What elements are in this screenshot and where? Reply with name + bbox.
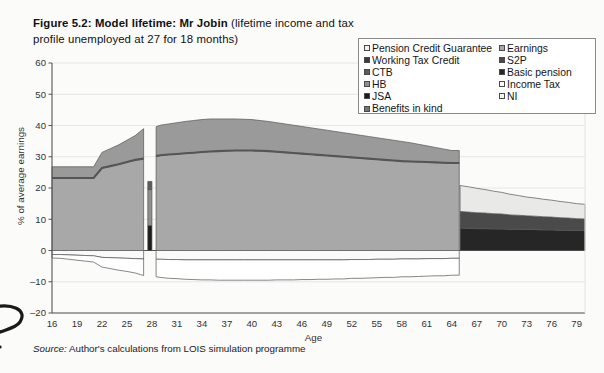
legend-label: JSA: [372, 91, 391, 102]
legend-item[interactable]: Income Tax: [499, 78, 591, 90]
y-tick-label: 60: [35, 57, 46, 68]
x-tick-label: 58: [396, 318, 407, 329]
y-tick-label: 30: [35, 151, 46, 162]
legend-label: NI: [507, 91, 517, 102]
legend-item[interactable]: NI: [499, 90, 591, 102]
x-axis-title: Age: [305, 332, 323, 343]
legend-swatch-icon: [499, 45, 505, 51]
x-tick-label: 46: [297, 318, 308, 329]
y-tick-label: 0: [41, 245, 46, 256]
area-band-ctb: [148, 181, 152, 189]
y-tick-label: –10: [30, 276, 46, 287]
legend-item[interactable]: S2P: [499, 54, 591, 66]
legend-swatch-icon: [499, 93, 505, 99]
chart-legend: Pension Credit GuaranteeWorking Tax Cred…: [358, 38, 596, 114]
legend-item[interactable]: Benefits in kind: [364, 102, 499, 114]
area-band-basic_pension: [460, 228, 585, 251]
area-band-hb: [148, 190, 152, 226]
y-tick-label: 20: [35, 182, 46, 193]
legend-swatch-icon: [499, 69, 505, 75]
x-tick-label: 64: [446, 318, 457, 329]
legend-swatch-icon: [364, 81, 370, 87]
x-tick-label: 22: [97, 318, 108, 329]
legend-label: Working Tax Credit: [372, 55, 459, 66]
x-tick-label: 49: [321, 318, 332, 329]
legend-label: HB: [372, 79, 386, 90]
legend-label: Benefits in kind: [372, 103, 442, 114]
x-tick-label: 52: [346, 318, 357, 329]
legend-swatch-icon: [364, 106, 370, 112]
x-tick-label: 16: [47, 318, 58, 329]
area-band-jsa: [148, 226, 152, 251]
figure-container: Figure 5.2: Model lifetime: Mr Jobin (li…: [0, 0, 604, 373]
x-tick-label: 19: [72, 318, 83, 329]
x-tick-label: 67: [471, 318, 482, 329]
x-tick-label: 70: [496, 318, 507, 329]
y-tick-label: 10: [35, 214, 46, 225]
chart-areas-group: [52, 119, 585, 280]
x-tick-label: 73: [521, 318, 532, 329]
x-tick-label: 61: [421, 318, 432, 329]
legend-item[interactable]: JSA: [364, 90, 499, 102]
legend-item[interactable]: Earnings: [499, 42, 591, 54]
legend-item[interactable]: HB: [364, 78, 499, 90]
x-tick-label: 31: [172, 318, 183, 329]
y-tick-label: 50: [35, 89, 46, 100]
x-tick-label: 37: [222, 318, 233, 329]
x-tick-label: 79: [571, 318, 582, 329]
x-tick-label: 40: [247, 318, 258, 329]
legend-swatch-icon: [499, 81, 505, 87]
source-note: Source: Author's calculations from LOIS …: [33, 343, 306, 354]
x-tick-label: 76: [546, 318, 557, 329]
x-tick-label: 43: [272, 318, 283, 329]
legend-item[interactable]: Working Tax Credit: [364, 54, 499, 66]
legend-label: S2P: [507, 55, 527, 66]
legend-column-left: Pension Credit GuaranteeWorking Tax Cred…: [364, 42, 499, 115]
legend-column-right: EarningsS2PBasic pensionIncome TaxNI: [499, 42, 591, 115]
x-tick-label: 28: [147, 318, 158, 329]
legend-item[interactable]: CTB: [364, 66, 499, 78]
legend-item[interactable]: Basic pension: [499, 66, 591, 78]
legend-label: Basic pension: [507, 67, 572, 78]
legend-label: CTB: [372, 67, 393, 78]
source-label: Source:: [33, 343, 67, 354]
area-band-earnings: [156, 151, 459, 251]
y-tick-label: 40: [35, 120, 46, 131]
x-tick-label: 25: [122, 318, 133, 329]
legend-swatch-icon: [364, 69, 370, 75]
legend-label: Earnings: [507, 43, 548, 54]
x-tick-label: 55: [371, 318, 382, 329]
x-tick-label: 34: [197, 318, 208, 329]
legend-swatch-icon: [364, 93, 370, 99]
legend-item[interactable]: Pension Credit Guarantee: [364, 42, 499, 54]
y-tick-label: –20: [30, 307, 46, 318]
legend-label: Pension Credit Guarantee: [372, 43, 492, 54]
legend-swatch-icon: [499, 57, 505, 63]
legend-swatch-icon: [364, 45, 370, 51]
area-band-income_tax: [156, 258, 459, 280]
legend-label: Income Tax: [507, 79, 560, 90]
y-axis-title: % of average earnings: [15, 127, 26, 225]
legend-swatch-icon: [364, 57, 370, 63]
area-band-ni: [156, 251, 459, 260]
source-text: Author's calculations from LOIS simulati…: [67, 343, 306, 354]
